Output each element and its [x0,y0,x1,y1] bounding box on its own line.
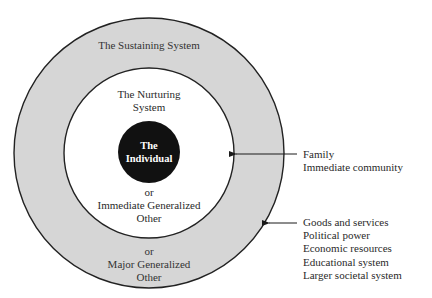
callout-item: Goods and services [303,216,402,229]
callout-item: Educational system [303,256,402,269]
nurturing-system-title: The Nurturing System [89,88,209,114]
immediate-generalized-line1: Immediate Generalized [79,199,219,212]
individual-label: The Individual [109,139,189,165]
immediate-generalized-other-label: or Immediate Generalized Other [79,186,219,225]
nurturing-callout-list: Family Immediate community [303,148,403,174]
callout-item: Immediate community [303,161,403,174]
major-generalized-line1: Major Generalized [49,258,249,271]
callout-item: Family [303,148,403,161]
immediate-generalized-line2: Other [79,212,219,225]
callout-item: Political power [303,229,402,242]
or-label-inner: or [79,186,219,199]
individual-line1: The [109,139,189,152]
major-generalized-line2: Other [49,271,249,284]
callout-item: Economic resources [303,242,402,255]
individual-line2: Individual [109,152,189,165]
nurturing-line1: The Nurturing [89,88,209,101]
sustaining-callout-list: Goods and services Political power Econo… [303,216,402,282]
or-label-outer: or [49,245,249,258]
nurturing-line2: System [89,101,209,114]
sustaining-system-title: The Sustaining System [49,39,249,52]
major-generalized-other-label: or Major Generalized Other [49,245,249,284]
callout-item: Larger societal system [303,269,402,282]
